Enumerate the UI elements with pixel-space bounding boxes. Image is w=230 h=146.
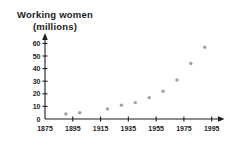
axes <box>42 33 224 122</box>
data-point <box>64 112 67 115</box>
y-tick-label: 60 <box>33 40 41 47</box>
data-point <box>106 107 109 110</box>
x-tick-label: 1895 <box>65 125 81 132</box>
data-point <box>78 111 81 114</box>
data-point <box>120 103 123 106</box>
x-tick-label: 1875 <box>37 125 53 132</box>
data-point <box>175 78 178 81</box>
y-tick-label: 0 <box>37 116 41 123</box>
y-tick-label: 10 <box>33 103 41 110</box>
scatter-chart: Working women (millions) 0102030405060 1… <box>0 0 230 146</box>
data-point <box>161 90 164 93</box>
y-tick-label: 50 <box>33 53 41 60</box>
data-point <box>189 62 192 65</box>
x-tick-label: 1995 <box>204 125 220 132</box>
x-tick-label: 1915 <box>93 125 109 132</box>
chart-title-line2: (millions) <box>33 21 77 32</box>
y-tick-label: 30 <box>33 78 41 85</box>
y-axis-arrow-icon <box>42 33 48 40</box>
x-axis-arrow-icon <box>218 116 225 122</box>
chart-title-line1: Working women <box>17 9 93 20</box>
y-tick-label: 20 <box>33 90 41 97</box>
data-points <box>64 45 206 115</box>
x-tick-label: 1935 <box>121 125 137 132</box>
x-tick-label: 1955 <box>148 125 164 132</box>
y-tick-label: 40 <box>33 65 41 72</box>
data-point <box>147 96 150 99</box>
data-point <box>134 101 137 104</box>
chart-canvas: Working women (millions) 0102030405060 1… <box>0 0 230 146</box>
data-point <box>203 45 206 48</box>
x-tick-label: 1975 <box>176 125 192 132</box>
